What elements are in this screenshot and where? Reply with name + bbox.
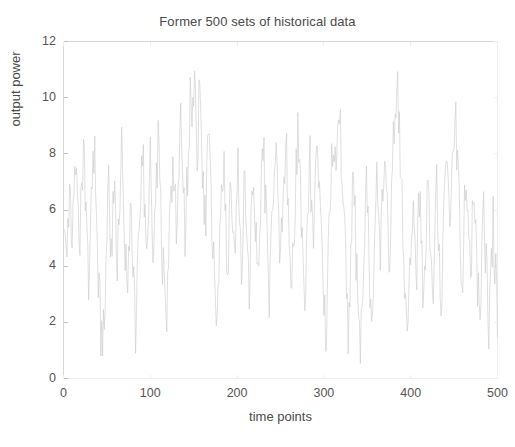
y-tick-label: 12 <box>28 34 56 48</box>
data-series-line <box>64 71 497 363</box>
y-tick-label: 0 <box>28 371 56 385</box>
plot-area <box>0 0 515 447</box>
x-tick-label: 500 <box>478 386 515 400</box>
y-tick-label: 4 <box>28 258 56 272</box>
y-tick-label: 8 <box>28 146 56 160</box>
chart-figure: Former 500 sets of historical data outpu… <box>0 0 515 447</box>
axis-frame <box>64 42 498 379</box>
y-tick-label: 10 <box>28 90 56 104</box>
data-series-group <box>64 71 497 363</box>
x-tick-label: 100 <box>130 386 170 400</box>
x-tick-label: 200 <box>217 386 257 400</box>
y-tick-label: 6 <box>28 202 56 216</box>
x-tick-label: 400 <box>391 386 431 400</box>
axis-tick-marks <box>64 42 498 379</box>
x-tick-label: 300 <box>304 386 344 400</box>
x-tick-label: 0 <box>44 386 84 400</box>
y-tick-label: 2 <box>28 314 56 328</box>
